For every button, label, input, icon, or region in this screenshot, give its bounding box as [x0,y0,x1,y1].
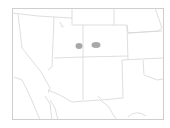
map-marker-2[interactable] [92,42,101,48]
map-canvas[interactable] [0,0,170,128]
map-container[interactable] [0,0,170,128]
map-marker-1[interactable] [76,43,83,49]
